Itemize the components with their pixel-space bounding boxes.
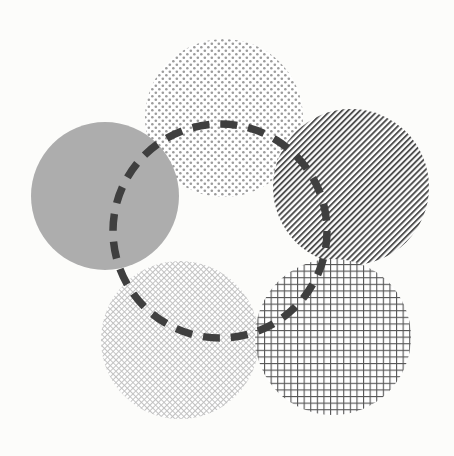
- right-diagonal-stripe-circle[interactable]: [273, 109, 429, 265]
- bottom-right-grid-circle[interactable]: [255, 259, 411, 415]
- circles-diagram: [0, 0, 454, 456]
- figure-canvas: [0, 0, 454, 456]
